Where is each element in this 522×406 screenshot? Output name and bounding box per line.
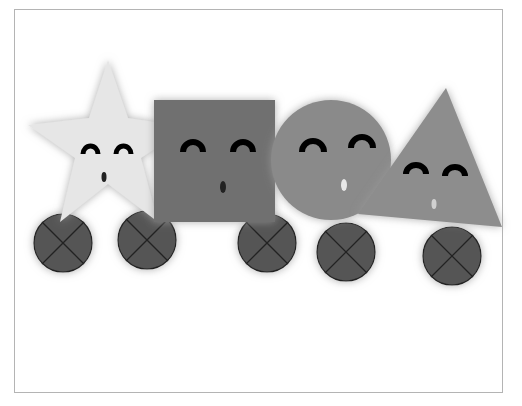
wheel-icon <box>423 227 481 285</box>
mouth-icon <box>220 181 226 193</box>
wheel-icon <box>34 214 92 272</box>
wheel-icon <box>317 223 375 281</box>
mouth-icon <box>102 172 107 182</box>
square-character <box>154 100 275 222</box>
cartoon-scene <box>0 0 522 406</box>
mouth-icon <box>432 199 437 209</box>
wheel-icon <box>238 214 296 272</box>
wheels <box>34 211 481 285</box>
mouth-icon <box>341 179 347 191</box>
